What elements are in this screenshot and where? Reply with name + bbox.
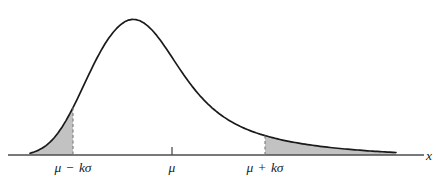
tick-label-ksigma-right: kσ — [271, 160, 285, 175]
boundary-dashed-lines — [73, 108, 265, 155]
tick-label-mu-minus-k-sigma: μ−kσ — [53, 160, 92, 175]
tick-label-ksigma-left: kσ — [79, 160, 93, 175]
distribution-chart: μ−kσ μ μ+kσ x — [0, 0, 438, 181]
tick-label-mu-plus-k-sigma: μ+kσ — [245, 160, 284, 175]
tick-label-operator-plus: + — [258, 160, 266, 175]
x-axis-label: x — [425, 148, 432, 163]
left-tail-shaded-area — [30, 108, 73, 155]
tick-label-mu-right: μ — [245, 160, 253, 175]
tick-label-operator-minus: − — [66, 160, 74, 175]
tick-labels: μ−kσ μ μ+kσ — [53, 160, 284, 175]
distribution-figure: μ−kσ μ μ+kσ x — [0, 0, 438, 181]
tick-label-mu: μ — [168, 160, 176, 175]
density-curve — [30, 19, 396, 153]
tick-label-mu-left: μ — [53, 160, 61, 175]
